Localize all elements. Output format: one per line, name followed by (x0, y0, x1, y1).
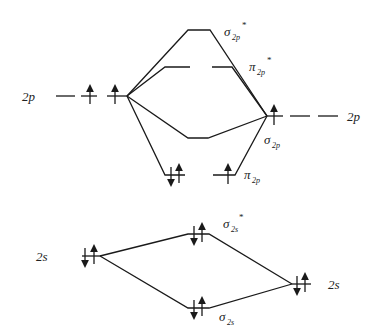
mo-diagram: 2p 2p 2s 2s σ 2p * π 2p * σ 2p π 2p σ 2s (0, 0, 378, 328)
svg-text:2p: 2p (252, 176, 260, 185)
pi2p-label: π 2p (244, 167, 260, 185)
pi2p-star-levels (127, 67, 267, 116)
svg-text:σ: σ (219, 309, 226, 324)
svg-text:2s: 2s (227, 318, 234, 327)
svg-text:2p: 2p (232, 33, 240, 42)
svg-text:2s: 2s (231, 225, 238, 234)
svg-text:2p: 2p (257, 68, 265, 77)
pi2p-star-label: π 2p * (249, 55, 272, 77)
svg-text:π: π (249, 59, 256, 74)
sigma2s-label: σ 2s (219, 309, 234, 327)
svg-text:*: * (239, 212, 244, 222)
left-2s-label: 2s (36, 249, 48, 264)
sigma2p-star-label: σ 2p * (224, 20, 247, 42)
pi2p-levels (127, 96, 267, 175)
sigma2p-label: σ 2p (264, 132, 280, 150)
sigma2p-star-level (127, 30, 267, 116)
right-2s-label: 2s (328, 277, 340, 292)
svg-text:*: * (242, 20, 247, 30)
sigma2s-level (100, 256, 292, 308)
svg-text:σ: σ (223, 216, 230, 231)
right-2p-label: 2p (347, 109, 361, 124)
svg-text:σ: σ (224, 24, 231, 39)
svg-text:σ: σ (264, 132, 271, 147)
svg-text:π: π (244, 167, 251, 182)
sigma2s-star-label: σ 2s * (223, 212, 244, 234)
svg-text:*: * (267, 55, 272, 65)
sigma2s-star-level (100, 234, 292, 284)
svg-text:2p: 2p (272, 141, 280, 150)
left-2p-label: 2p (22, 89, 36, 104)
sigma2p-level (127, 96, 267, 138)
